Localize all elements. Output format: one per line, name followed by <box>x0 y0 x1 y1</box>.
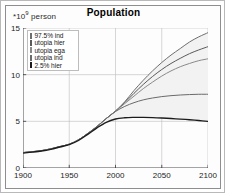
y-axis-unit-label: *109 person <box>13 10 56 21</box>
legend-swatch-icon-4 <box>30 62 32 68</box>
legend-label-2: utopia ega <box>35 47 65 54</box>
y-axis-unit-suffix: person <box>29 12 56 21</box>
y-tick-label-15: 15 <box>11 24 20 33</box>
legend-item-2[interactable]: utopia ega <box>30 47 76 54</box>
legend-label-1: utopia hier <box>35 39 65 46</box>
legend-item-3[interactable]: utopia ind <box>30 54 76 61</box>
legend-label-0: 97.5% ind <box>35 32 64 39</box>
legend-item-0[interactable]: 97.5% ind <box>30 32 76 39</box>
x-tick-label-1950: 1950 <box>60 171 78 180</box>
population-chart-figure: Population *109 person 0 5 10 15 1900 19… <box>0 0 225 193</box>
x-tick-label-1900: 1900 <box>14 171 32 180</box>
legend-label-3: utopia ind <box>35 54 63 61</box>
legend-label-4: 2.5% hier <box>35 62 62 69</box>
legend-swatch-icon-0 <box>30 33 32 39</box>
y-tick-label-10: 10 <box>11 70 20 79</box>
legend-swatch-icon-1 <box>30 40 32 46</box>
x-tick-label-2100: 2100 <box>199 171 217 180</box>
legend-item-4[interactable]: 2.5% hier <box>30 62 76 69</box>
y-tick-label-5: 5 <box>16 117 20 126</box>
y-axis-unit-prefix: *10 <box>13 12 25 21</box>
legend-item-1[interactable]: utopia hier <box>30 39 76 46</box>
x-tick-label-2000: 2000 <box>107 171 125 180</box>
chart-legend: 97.5% ind utopia hier utopia ega utopia … <box>27 30 79 71</box>
legend-swatch-icon-3 <box>30 55 32 61</box>
legend-swatch-icon-2 <box>30 47 32 53</box>
x-tick-label-2050: 2050 <box>153 171 171 180</box>
